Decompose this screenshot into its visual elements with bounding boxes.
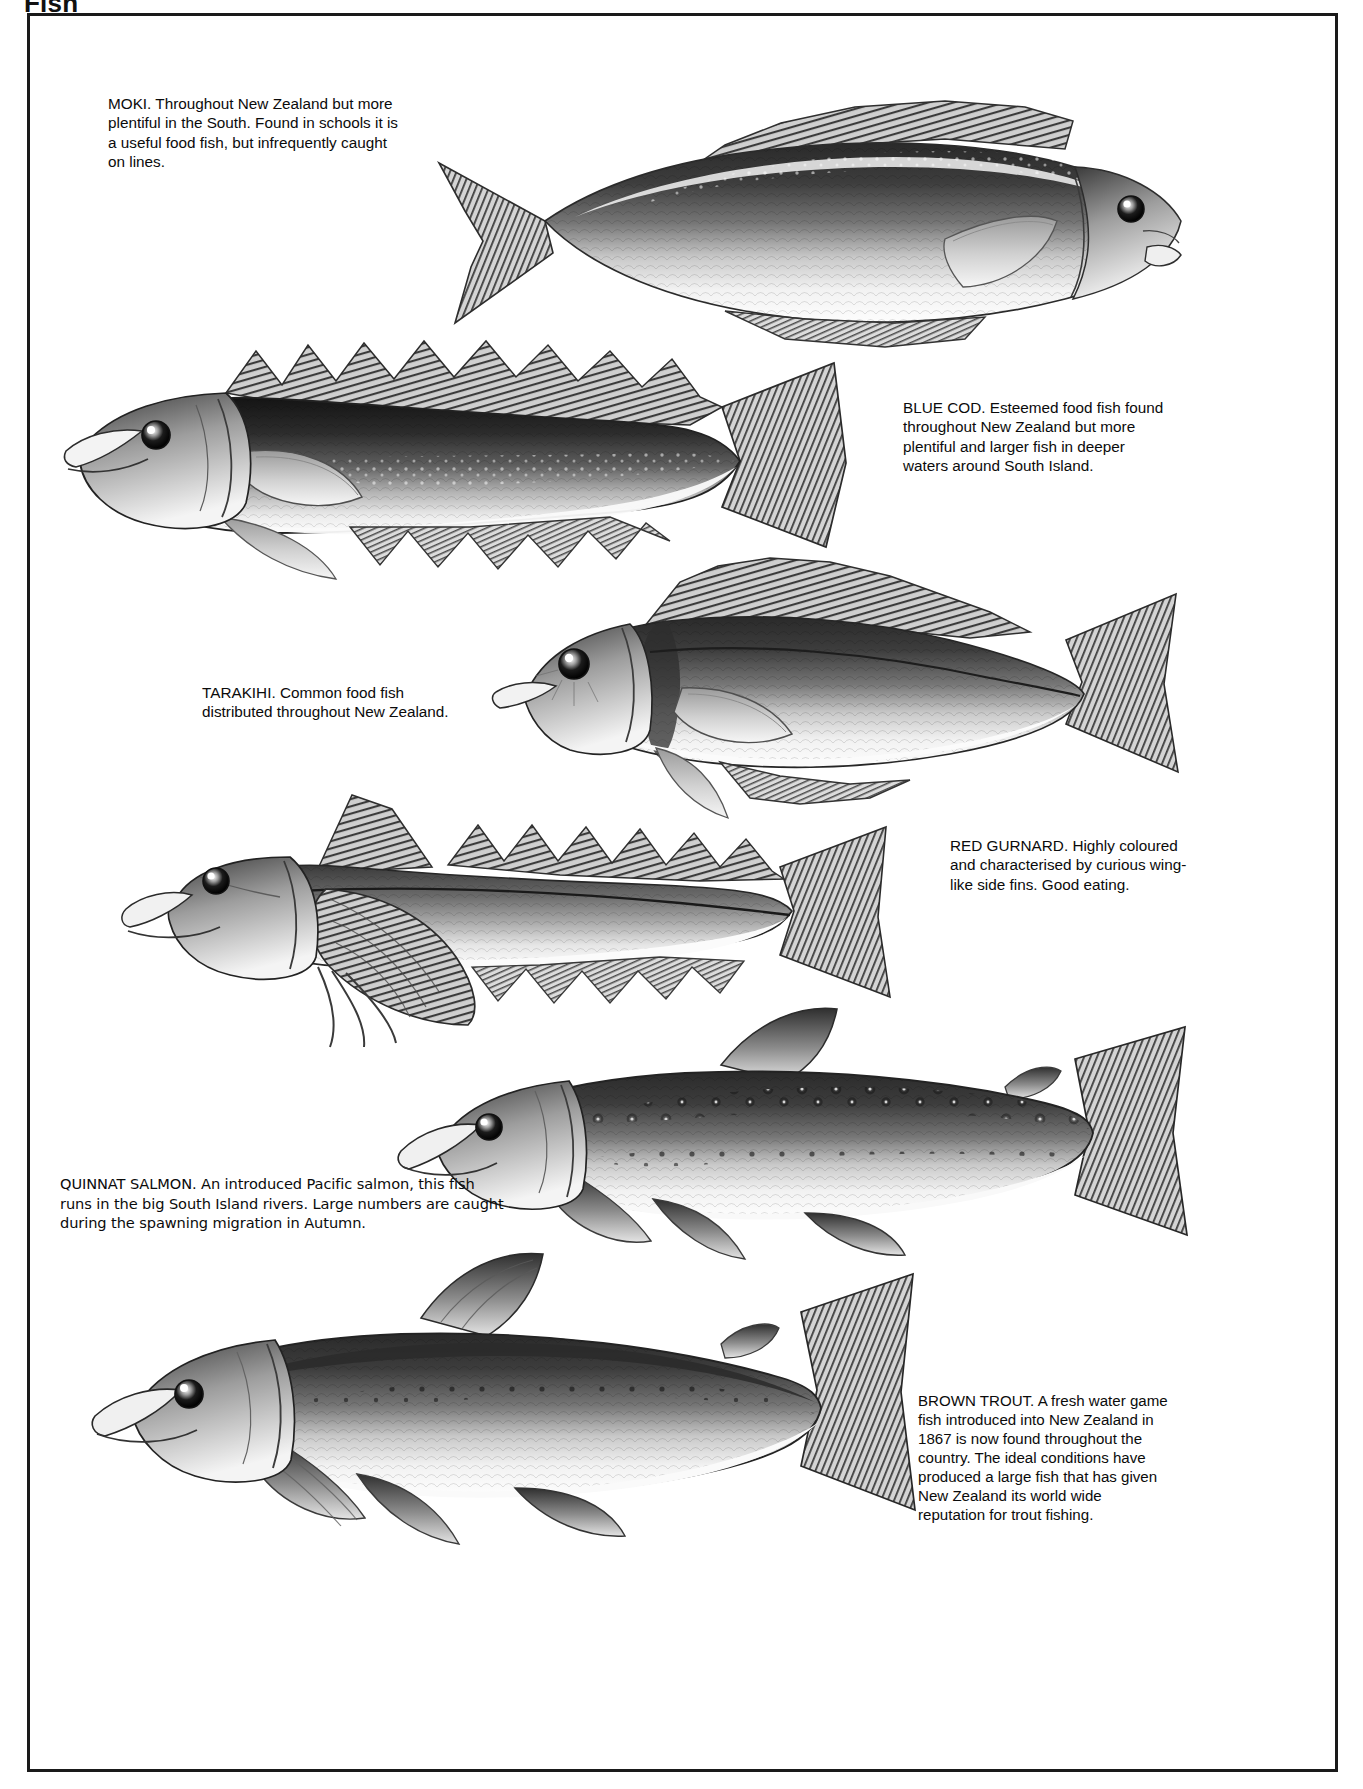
caption-quinnat-salmon: QUINNAT SALMON. An introduced Pacific sa…: [60, 1174, 510, 1233]
caption-tarakihi: TARAKIHI. Common food fish distributed t…: [202, 683, 474, 722]
illustration-brown-trout: Grayscale halftone illustration of a bro…: [85, 1226, 925, 1556]
caption-moki: MOKI. Throughout New Zealand but more pl…: [108, 94, 408, 172]
caption-blue-cod: BLUE COD. Esteemed food fish found throu…: [903, 398, 1171, 476]
caption-red-gurnard: RED GURNARD. Highly coloured and charact…: [950, 836, 1198, 894]
page-border-frame: Grayscale halftone illustration of a mok…: [27, 13, 1338, 1772]
plate-area: Grayscale halftone illustration of a mok…: [30, 16, 1335, 1769]
caption-brown-trout: BROWN TROUT. A fresh water game fish int…: [918, 1391, 1168, 1524]
